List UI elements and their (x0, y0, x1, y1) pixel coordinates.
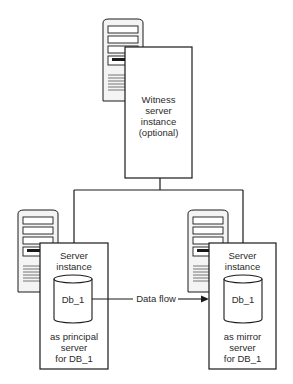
witness-line-4: (optional) (125, 127, 192, 138)
principal-title: Server instance (40, 250, 108, 272)
mirror-role-2: server (209, 342, 276, 353)
mirroring-diagram (0, 0, 293, 384)
principal-title-2: instance (40, 261, 108, 272)
witness-line-2: server (125, 105, 192, 116)
mirror-role: as mirror server for DB_1 (209, 331, 276, 364)
principal-role-1: as principal (40, 331, 108, 342)
data-flow-label: Data flow (134, 293, 178, 304)
mirror-title-2: instance (209, 261, 276, 272)
witness-line-3: instance (125, 116, 192, 127)
mirror-title-1: Server (209, 250, 276, 261)
witness-line-1: Witness (125, 94, 192, 105)
mirror-role-1: as mirror (209, 331, 276, 342)
mirror-role-3: for DB_1 (209, 353, 276, 364)
mirror-db-label: Db_1 (224, 294, 262, 305)
principal-role-2: server (40, 342, 108, 353)
principal-role-3: for DB_1 (40, 353, 108, 364)
mirror-title: Server instance (209, 250, 276, 272)
principal-title-1: Server (40, 250, 108, 261)
principal-role: as principal server for DB_1 (40, 331, 108, 364)
principal-db-label: Db_1 (54, 294, 92, 305)
witness-label: Witness server instance (optional) (125, 94, 192, 138)
